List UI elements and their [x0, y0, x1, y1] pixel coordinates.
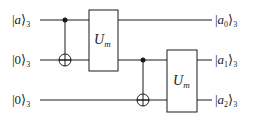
unitary-gate-2-label: Um: [173, 73, 190, 90]
output-label-2: |a2⟩3: [215, 93, 237, 109]
input-label-2: |0⟩3: [12, 93, 30, 109]
input-label-0: |a⟩3: [12, 13, 30, 29]
output-label-0: |a0⟩3: [215, 13, 237, 29]
input-label-1: |0⟩3: [12, 53, 30, 69]
control-dot-icon: [141, 58, 146, 63]
cnot-gate-1: [59, 18, 71, 67]
unitary-gate-1-label: Um: [94, 32, 111, 49]
cnot-gate-2: [137, 58, 149, 107]
output-label-1: |a1⟩3: [215, 53, 237, 69]
control-dot-icon: [63, 18, 68, 23]
